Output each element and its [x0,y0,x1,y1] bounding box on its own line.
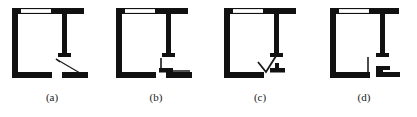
bottom-left-wall [224,72,264,78]
panel-b: (b) [104,0,208,117]
bottom-left-wall [330,72,370,78]
window-frame-inner [339,13,369,14]
window-frame-inner [21,13,51,14]
right-wall-stub [62,8,67,56]
door-leaf-pocket-block [376,66,390,72]
top-wall-right-segment [155,8,188,14]
bottom-left-wall [12,72,52,78]
left-wall [12,8,18,78]
window-frame-inner [233,13,263,14]
floor-plan-c [208,0,312,95]
caption-a: (a) [0,92,104,103]
door-stop-post [275,63,279,69]
right-wall-stub-foot [162,53,175,57]
caption-b: (b) [104,92,208,103]
window-frame-outer [125,8,155,9]
bottom-right-wall [166,72,192,78]
door-leaf-thick-block [159,68,173,73]
top-wall-right-segment [51,8,84,14]
floor-plan-b [104,0,208,95]
floor-plan-c-svg [208,0,312,95]
right-wall-stub [166,8,171,56]
floor-plan-d [312,0,416,95]
left-wall [116,8,122,78]
right-wall-stub-foot [376,53,389,57]
floor-plan-a [0,0,104,95]
caption-d: (d) [312,92,416,103]
right-wall-stub-foot [58,53,71,57]
figure-four-door-floor-plans: (a) (b) [0,0,417,117]
top-wall-right-segment [263,8,296,14]
floor-plan-b-svg [104,0,208,95]
floor-plan-d-svg [312,0,417,95]
caption-c: (c) [208,92,312,103]
window-frame-outer [21,8,51,9]
bottom-left-wall [116,72,156,78]
right-wall-stub [380,8,385,56]
floor-plan-a-svg [0,0,104,95]
bottom-right-wall [62,72,88,78]
panel-c: (c) [208,0,312,117]
panel-a: (a) [0,0,104,117]
left-wall [224,8,230,78]
window-frame-outer [233,8,263,9]
right-wall-stub [274,8,279,56]
bottom-right-wall [376,72,400,77]
panel-d: (d) [312,0,416,117]
window-frame-outer [339,8,369,9]
left-wall [330,8,336,78]
window-frame-inner [125,13,155,14]
